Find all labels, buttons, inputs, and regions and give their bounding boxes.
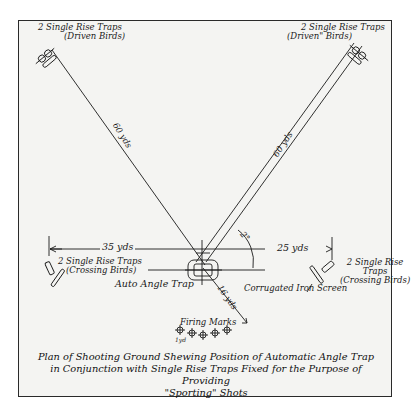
left-crossing-trap-1: [45, 261, 55, 275]
auto-angle-trap-label: Auto Angle Trap: [115, 279, 194, 289]
caption-line-2: in Conjunction with Single Rise Traps Fi…: [28, 363, 384, 387]
top-left-traps-icon: [34, 46, 60, 71]
right-crossing-traps-label: 2 Single Rise Traps (Crossing Birds): [340, 258, 410, 285]
left-crossing-traps-label: 2 Single Rise Traps (Crossing Birds): [58, 257, 142, 275]
left-diagonal-line: [52, 50, 205, 265]
diagram-caption: Plan of Shooting Ground Shewing Position…: [28, 351, 384, 399]
left-horizontal-distance: 35 yds: [100, 242, 135, 252]
caption-line-3: "Sporting" Shots: [28, 387, 384, 399]
right-arrow-head: [326, 246, 332, 252]
top-left-traps-line2: (Driven Birds): [38, 32, 125, 41]
right-crossing-trap: [321, 261, 334, 273]
top-left-traps-label: 2 Single Rise Traps (Driven Birds): [38, 23, 125, 41]
firing-marks-label: Firing Marks: [180, 318, 236, 327]
corrugated-iron-screen: [309, 265, 323, 283]
top-right-traps-icon: [344, 43, 370, 68]
left-crossing-line2: (Crossing Birds): [58, 266, 142, 275]
right-horizontal-distance: 25 yds: [275, 243, 310, 253]
firing-marks-spacing: 1yd: [175, 337, 186, 343]
right-diagonal-line-b: [206, 46, 362, 262]
caption-line-1: Plan of Shooting Ground Shewing Position…: [28, 351, 384, 363]
top-right-traps-label: 2 Single Rise Traps (Driven" Birds): [287, 23, 385, 41]
corrugated-screen-label: Corrugated Iron Screen: [244, 284, 347, 293]
right-crossing-line3: (Crossing Birds): [340, 276, 410, 285]
top-right-traps-line2: (Driven" Birds): [287, 32, 385, 41]
